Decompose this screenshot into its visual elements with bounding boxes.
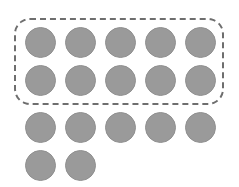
dot[interactable] (65, 112, 96, 143)
dot[interactable] (145, 27, 176, 58)
dot[interactable] (25, 112, 56, 143)
dot-grid (0, 0, 239, 187)
dot[interactable] (105, 112, 136, 143)
dot[interactable] (185, 65, 216, 96)
dot[interactable] (25, 27, 56, 58)
dot[interactable] (105, 27, 136, 58)
dot[interactable] (65, 150, 96, 181)
dot[interactable] (145, 112, 176, 143)
dot[interactable] (105, 65, 136, 96)
dot[interactable] (65, 27, 96, 58)
dot[interactable] (145, 65, 176, 96)
dot-array-canvas (0, 0, 239, 187)
dot[interactable] (65, 65, 96, 96)
dot[interactable] (25, 65, 56, 96)
dot[interactable] (185, 112, 216, 143)
dot[interactable] (185, 27, 216, 58)
dot[interactable] (25, 150, 56, 181)
